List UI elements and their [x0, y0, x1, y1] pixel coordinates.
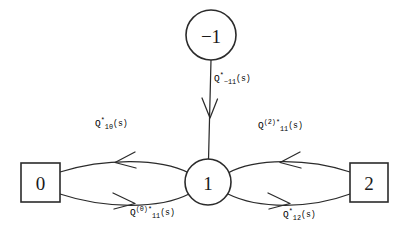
arrowhead-left-to-0 [115, 152, 136, 168]
edge-label-arg: (s) [236, 74, 251, 83]
node-zero[interactable]: 0 [21, 163, 60, 202]
edge-label-arg: (s) [301, 210, 316, 219]
edge-2-to-1 [228, 152, 350, 173]
edge-label-0-to-1: Q(0)*11(s) [130, 208, 175, 218]
diagram-canvas: −1 1 0 2 Q*−11(s) Q*10(s) Q(0)*11(s) Q(2… [0, 0, 407, 249]
node-minus-one[interactable]: −1 [186, 10, 236, 60]
edge-label-sub: 10 [105, 123, 113, 131]
edge-label-sub: 11 [280, 125, 288, 133]
edge-line-minus1-to-1 [209, 60, 212, 160]
edge-label-sub: −11 [224, 78, 236, 86]
edge-label-sup: (2)* [264, 118, 280, 126]
edge-label-1-to-2: Q*12(s) [283, 210, 316, 220]
node-two-label: 2 [364, 173, 374, 194]
edge-label-sup: (0)* [136, 205, 152, 213]
node-zero-label: 0 [36, 173, 46, 194]
node-two[interactable]: 2 [350, 163, 388, 202]
edge-label-sub: 11 [152, 212, 160, 220]
node-one-label: 1 [203, 173, 213, 194]
arrowhead-left-to-1 [280, 152, 301, 168]
edge-label-arg: (s) [160, 208, 175, 217]
edge-label-sub: 12 [293, 214, 301, 222]
graph-svg: −1 1 0 2 [0, 0, 407, 249]
node-one[interactable]: 1 [185, 159, 231, 205]
edge-1-to-0 [60, 152, 189, 173]
arrowhead-right-to-2 [268, 193, 290, 209]
edge-line-2-to-1 [228, 162, 350, 173]
edge-label-1-to-0: Q*10(s) [95, 119, 128, 129]
edge-label-arg: (s) [288, 121, 303, 130]
edge-line-0-to-1 [60, 194, 189, 205]
edge-0-to-1 [60, 193, 189, 209]
edge-label-arg: (s) [113, 119, 128, 128]
edge-label-2-to-1: Q(2)*11(s) [258, 121, 303, 131]
edge-line-1-to-0 [60, 162, 189, 173]
node-minus-one-label: −1 [201, 26, 221, 47]
edge-label-minus1-to-1: Q*−11(s) [214, 74, 251, 84]
